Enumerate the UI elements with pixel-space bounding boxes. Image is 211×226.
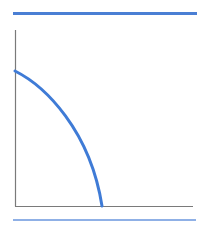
bottom-rule xyxy=(13,219,196,221)
chart xyxy=(0,0,211,226)
frontier-curve xyxy=(15,71,102,206)
